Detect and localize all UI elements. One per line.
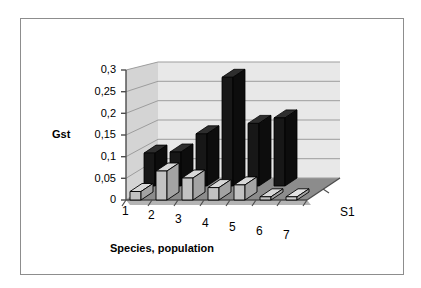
z-axis-tick	[323, 189, 329, 193]
bar-back-6	[274, 110, 297, 186]
x-tick-label-1: 2	[148, 208, 155, 222]
x-axis-title: Species, population	[110, 242, 214, 254]
chart-screenshot: 0,3 0,25 0,2 0,15 0,1 0,05 0 Gst 1 2 3 4…	[0, 0, 421, 288]
floor-front-edge	[126, 200, 311, 205]
x-tick-label-6: 7	[283, 228, 290, 242]
y-tick-label-4: 0,2	[76, 107, 116, 119]
x-tick-label-3: 4	[202, 216, 209, 230]
y-axis-ticks	[121, 70, 126, 200]
y-tick-label-6: 0,3	[76, 63, 116, 75]
x-tick-label-5: 6	[256, 224, 263, 238]
bar-back-4	[222, 69, 245, 186]
y-tick-label-5: 0,25	[76, 85, 116, 97]
y-tick-label-2: 0,1	[76, 150, 116, 162]
bar-front-2	[156, 163, 179, 200]
bar-back-5	[248, 115, 271, 186]
x-tick-label-4: 5	[229, 220, 236, 234]
y-tick-label-3: 0,15	[76, 128, 116, 140]
x-tick-label-0: 1	[122, 204, 129, 218]
x-tick-label-2: 3	[175, 212, 182, 226]
y-tick-label-0: 0	[76, 193, 116, 205]
y-tick-label-1: 0,05	[76, 172, 116, 184]
y-axis-title: Gst	[52, 128, 70, 140]
z-axis-label: S1	[340, 205, 355, 219]
